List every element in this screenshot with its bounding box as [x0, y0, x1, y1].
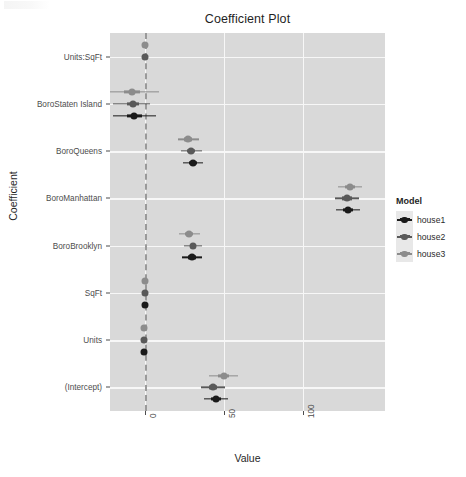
data-point: [344, 195, 351, 202]
data-point: [141, 301, 148, 308]
gridline-vertical: [303, 33, 304, 411]
legend-item-house1[interactable]: house1: [396, 211, 445, 228]
coefficient-plot: Coefficient Plot Units:SqFtBoroStaten Is…: [0, 0, 466, 477]
x-tick-label: 0: [149, 413, 158, 418]
data-point: [189, 159, 196, 166]
plot-panel: [110, 33, 385, 411]
x-tick-mark: [224, 411, 225, 415]
y-axis-title: Coefficient: [7, 151, 19, 241]
gridline-horizontal: [110, 57, 385, 58]
gridline-horizontal: [110, 293, 385, 294]
x-tick-mark: [145, 411, 146, 415]
data-point: [188, 148, 195, 155]
capture-artifact: [4, 1, 50, 9]
data-point: [141, 278, 148, 285]
data-point: [212, 396, 219, 403]
y-tick-mark: [106, 387, 110, 388]
data-point: [189, 242, 196, 249]
y-tick-mark: [106, 292, 110, 293]
data-point: [209, 384, 216, 391]
data-point: [131, 112, 138, 119]
legend-key-icon: [396, 228, 413, 245]
y-tick-label: BoroStaten Island: [0, 99, 102, 108]
legend-label: house1: [417, 215, 445, 225]
y-tick-mark: [106, 56, 110, 57]
y-tick-mark: [106, 245, 110, 246]
y-tick-mark: [106, 198, 110, 199]
data-point: [347, 183, 354, 190]
data-point: [189, 254, 196, 261]
data-point: [141, 41, 148, 48]
legend-item-house2[interactable]: house2: [396, 228, 445, 245]
legend-label: house3: [417, 249, 445, 259]
data-point: [129, 100, 136, 107]
y-tick-mark: [106, 103, 110, 104]
y-tick-label: BoroBrooklyn: [0, 241, 102, 250]
gridline-vertical: [224, 33, 225, 411]
data-point: [141, 53, 148, 60]
y-tick-label: Units:SqFt: [0, 52, 102, 61]
x-tick-label: 50: [228, 409, 237, 418]
page-title: Coefficient Plot: [110, 12, 385, 26]
x-tick-label: 100: [307, 404, 316, 418]
y-tick-mark: [106, 340, 110, 341]
gridline-horizontal: [110, 340, 385, 341]
legend-key-icon: [396, 245, 413, 262]
legend-label: house2: [417, 232, 445, 242]
data-point: [141, 348, 148, 355]
legend-item-list: house1house2house3: [396, 211, 445, 262]
y-tick-label: Units: [0, 336, 102, 345]
legend-item-house3[interactable]: house3: [396, 245, 445, 262]
data-point: [129, 89, 136, 96]
x-axis-title: Value: [110, 452, 385, 464]
data-point: [141, 325, 148, 332]
data-point: [185, 136, 192, 143]
legend-key-icon: [396, 211, 413, 228]
data-point: [141, 289, 148, 296]
data-point: [141, 337, 148, 344]
gridline-horizontal: [110, 246, 385, 247]
legend: Model house1house2house3: [396, 196, 445, 262]
x-tick-mark: [303, 411, 304, 415]
gridline-horizontal: [110, 151, 385, 152]
y-tick-mark: [106, 151, 110, 152]
gridline-horizontal: [110, 104, 385, 105]
data-point: [344, 207, 351, 214]
data-point: [186, 230, 193, 237]
y-tick-label: (Intercept): [0, 383, 102, 392]
y-tick-label: SqFt: [0, 288, 102, 297]
gridline-horizontal: [110, 387, 385, 388]
data-point: [220, 372, 227, 379]
legend-title: Model: [396, 196, 445, 206]
